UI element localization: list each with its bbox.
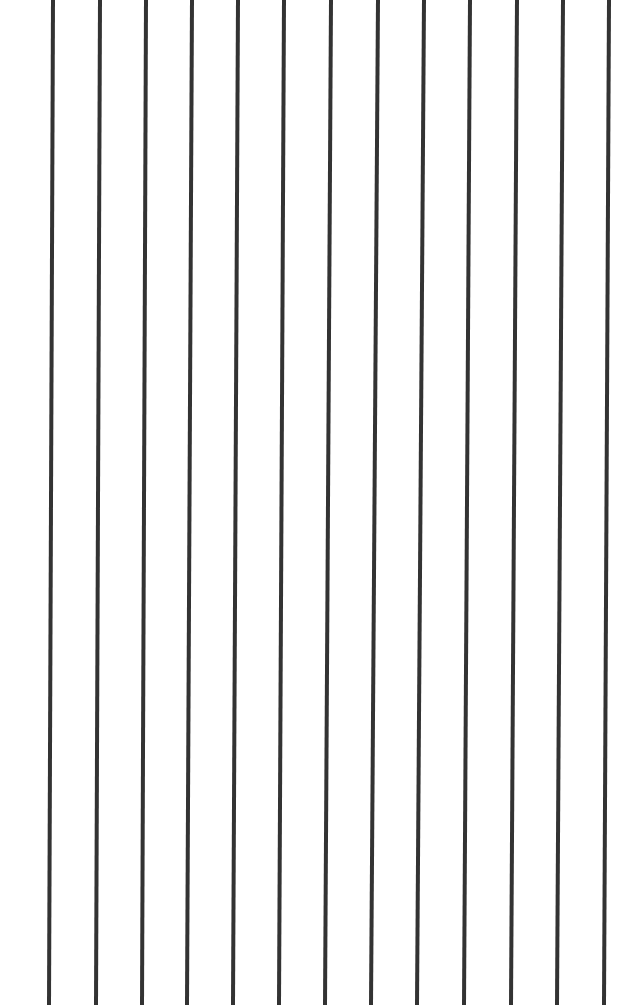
vertical-line <box>142 0 146 1005</box>
vertical-line <box>464 0 470 1005</box>
vertical-lines-pattern <box>0 0 620 1005</box>
vertical-line <box>511 0 517 1005</box>
vertical-line <box>233 0 238 1005</box>
vertical-line <box>96 0 100 1005</box>
vertical-line <box>417 0 424 1005</box>
vertical-line <box>279 0 284 1005</box>
vertical-line <box>187 0 192 1005</box>
vertical-line <box>371 0 378 1005</box>
vertical-line <box>604 0 609 1005</box>
vertical-line <box>49 0 53 1005</box>
vertical-line <box>557 0 563 1005</box>
vertical-line <box>325 0 331 1005</box>
